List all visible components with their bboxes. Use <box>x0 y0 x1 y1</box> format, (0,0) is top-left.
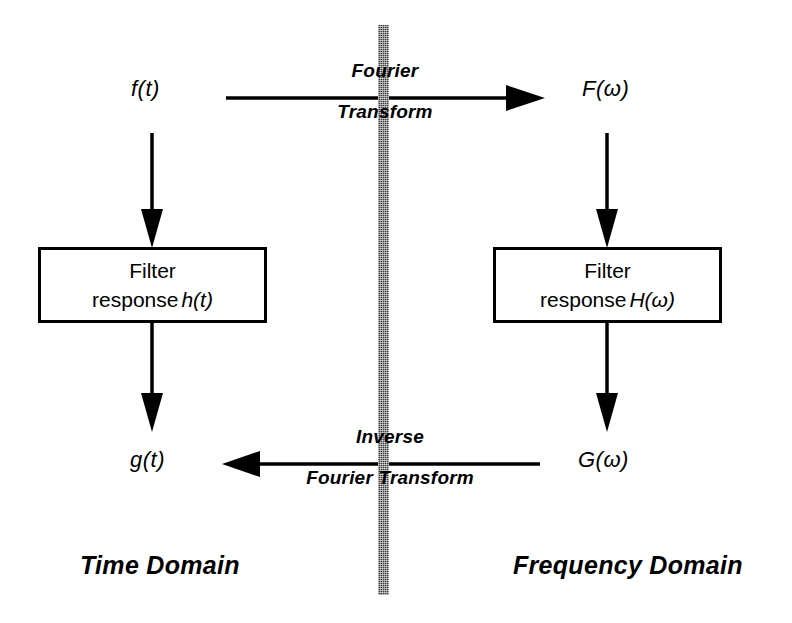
signal-label-g-of-t: g(t) <box>130 447 165 473</box>
fourier-diagram: f(t) F(ω) g(t) G(ω) Fourier Transform In… <box>0 0 792 623</box>
time-output-down-arrow <box>141 322 163 432</box>
time-input-down-arrow <box>141 133 163 248</box>
signal-label-G-of-omega: G(ω) <box>578 447 629 473</box>
freq-filter-response-word: response <box>540 288 626 311</box>
time-filter-symbol: h(t) <box>178 288 213 311</box>
forward-transform-label-top: Fourier <box>305 60 465 82</box>
freq-output-down-arrow <box>596 322 618 432</box>
time-domain-title: Time Domain <box>80 551 240 581</box>
freq-input-down-arrow <box>596 133 618 248</box>
frequency-domain-title: Frequency Domain <box>513 551 743 581</box>
signal-label-f-of-t: f(t) <box>131 76 160 102</box>
freq-filter-line1: Filter <box>584 259 631 283</box>
signal-label-F-of-omega: F(ω) <box>582 76 629 102</box>
forward-transform-label-bottom: Transform <box>305 101 465 123</box>
time-filter-line2: responseh(t) <box>92 288 213 312</box>
time-filter-response-word: response <box>92 288 178 311</box>
inverse-transform-label-bottom: Fourier Transform <box>259 467 521 489</box>
frequency-domain-filter-box: Filter responseH(ω) <box>493 247 722 323</box>
time-filter-line1: Filter <box>129 259 176 283</box>
freq-filter-symbol: H(ω) <box>626 288 675 311</box>
time-domain-filter-box: Filter responseh(t) <box>38 247 267 323</box>
inverse-transform-label-top: Inverse <box>300 426 480 448</box>
freq-filter-line2: responseH(ω) <box>540 288 675 312</box>
